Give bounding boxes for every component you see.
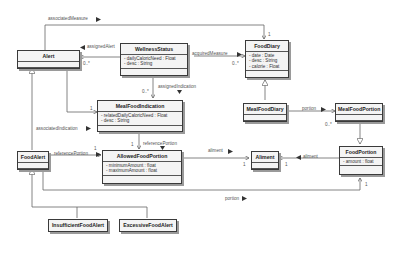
multiplicity: 0..*	[83, 61, 90, 66]
class-meal-food-portion[interactable]: MealFoodPortion	[335, 103, 383, 122]
class-name: Aliment	[252, 152, 278, 163]
class-name: FoodPortion	[340, 147, 382, 158]
multiplicity: 1	[243, 162, 246, 167]
multiplicity: 1	[94, 146, 97, 151]
class-name: AllowedFoodPortion	[103, 151, 181, 162]
attribute: - maximumAmount : float	[106, 168, 178, 174]
multiplicity: 1	[285, 162, 288, 167]
class-operations	[340, 166, 382, 170]
class-operations	[244, 121, 286, 125]
attribute: - desc : String	[124, 61, 184, 67]
multiplicity: 1	[131, 142, 134, 147]
label-assigned-indication: assignedIndication	[158, 84, 196, 89]
label-acquired-measure: acquiredMeasure	[192, 51, 228, 56]
attribute: - amount : float	[343, 159, 379, 165]
direction-arrow-icon	[228, 149, 233, 154]
class-name: MealFoodPortion	[336, 104, 382, 115]
class-allowed-food-portion[interactable]: AllowedFoodPortion - minimumAmount : flo…	[102, 150, 182, 184]
class-alert[interactable]: Alert	[17, 50, 80, 69]
class-operations	[336, 121, 382, 125]
attribute: - desc : String	[101, 118, 179, 124]
class-meal-food-diary[interactable]: MealFoodDiary	[243, 103, 287, 122]
direction-arrow-icon	[86, 126, 91, 131]
class-aliment[interactable]: Aliment	[251, 151, 279, 170]
class-food-portion[interactable]: FoodPortion - amount : float	[339, 146, 383, 175]
class-excessive-food-alert[interactable]: ExcessiveFoodAlert	[119, 219, 177, 232]
multiplicity: 1	[268, 32, 271, 37]
class-attributes: - dailyCaloricNeed : Float - desc : Stri…	[121, 55, 187, 69]
multiplicity: 0..*	[142, 89, 149, 94]
label-assigned-alert: assignedAlert	[87, 44, 115, 49]
multiplicity: 1	[90, 106, 93, 111]
multiplicity: 0..*	[232, 61, 239, 66]
class-food-diary[interactable]: FoodDiary - date : Date - desc : String …	[245, 40, 289, 78]
label-portion-2: portion	[225, 196, 239, 201]
label-associated-measure: associatedMeasure	[48, 16, 88, 21]
label-reference-portion-2: referencePortion	[54, 151, 88, 156]
class-attributes: - date : Date - desc : String - calorie …	[246, 52, 288, 72]
class-name: MealFoodDiary	[244, 104, 286, 115]
label-reference-portion-1: referencePortion	[143, 141, 177, 146]
label-aliment-2: aliment	[303, 154, 318, 159]
class-attributes: - minimumAmount : float - maximumAmount …	[103, 162, 181, 176]
class-operations	[252, 169, 278, 173]
class-name: FoodDiary	[246, 41, 288, 52]
class-insufficient-food-alert[interactable]: InsufficientFoodAlert	[48, 219, 108, 232]
class-wellness-status[interactable]: WellnessStatus - dailyCaloricNeed : Floa…	[120, 43, 188, 76]
direction-arrow-icon	[242, 196, 247, 201]
class-name: InsufficientFoodAlert	[49, 220, 107, 230]
class-attributes: - relatedDailyCaloricNeed : Float - desc…	[98, 112, 182, 126]
direction-arrow-icon	[296, 155, 301, 160]
class-operations	[121, 69, 187, 73]
label-aliment-1: aliment	[208, 148, 223, 153]
class-operations	[246, 71, 288, 75]
class-operations	[98, 126, 182, 130]
attribute: - calorie : Float	[249, 64, 285, 70]
class-operations	[18, 169, 48, 173]
direction-arrow-icon	[177, 90, 182, 94]
direction-arrow-icon	[96, 17, 101, 22]
direction-arrow-icon	[80, 45, 85, 50]
class-attributes: - amount : float	[340, 158, 382, 167]
label-portion-1: portion	[302, 106, 316, 111]
class-name: ExcessiveFoodAlert	[120, 220, 176, 230]
class-food-alert[interactable]: FoodAlert	[17, 151, 49, 170]
multiplicity: 1	[365, 182, 368, 187]
class-name: FoodAlert	[18, 152, 48, 163]
class-name: WellnessStatus	[121, 44, 187, 55]
class-operations	[103, 176, 181, 180]
uml-diagram-canvas: Alert WellnessStatus - dailyCaloricNeed …	[0, 0, 400, 255]
class-meal-food-indication[interactable]: MealFoodIndication - relatedDailyCaloric…	[97, 100, 183, 132]
class-name: MealFoodIndication	[98, 101, 182, 112]
label-associated-indication: associatedIndication	[36, 126, 78, 131]
class-operations	[18, 68, 79, 72]
direction-arrow-icon	[96, 152, 101, 157]
multiplicity: 0..*	[325, 122, 332, 127]
class-name: Alert	[18, 51, 79, 62]
